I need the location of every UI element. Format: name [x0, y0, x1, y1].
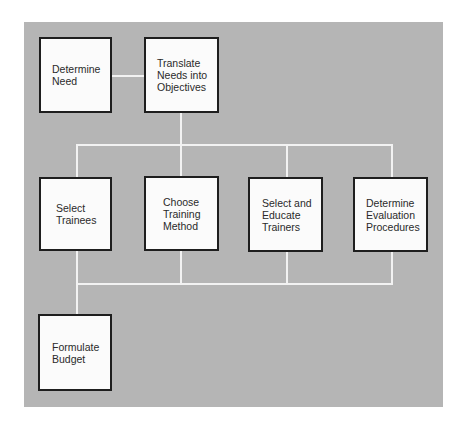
node-formulate-budget: Formulate Budget [38, 314, 112, 391]
node-translate-needs: Translate Needs into Objectives [144, 37, 219, 113]
node-label-line: Training [163, 208, 217, 220]
node-label-line: Method [163, 220, 217, 232]
node-label-line: Educate [262, 209, 321, 221]
node-label-line: Select [56, 202, 110, 214]
bottom-bus-line [76, 283, 393, 285]
node-label-line: Procedures [366, 221, 426, 233]
node-choose-training-method: Choose Training Method [144, 176, 219, 251]
node-label-line: Budget [52, 353, 110, 365]
node-label-line: Formulate [52, 341, 110, 353]
node-label-line: Needs into [157, 69, 217, 81]
top-bus-line [76, 144, 393, 146]
node-label-line: Need [52, 75, 110, 87]
node-label-line: Determine [52, 63, 110, 75]
node-label-line: Trainees [56, 214, 110, 226]
node-label-line: Choose [163, 196, 217, 208]
connector-trainers-down [286, 251, 288, 285]
node-label-line: Translate [157, 57, 217, 69]
node-label-line: Trainers [262, 221, 321, 233]
node-label-line: Select and [262, 197, 321, 209]
node-select-trainees: Select Trainees [39, 177, 112, 251]
connector-bus-to-trainers [286, 144, 288, 177]
node-determine-evaluation: Determine Evaluation Procedures [353, 177, 428, 252]
node-determine-need: Determine Need [39, 37, 112, 113]
connector-method-down [180, 250, 182, 285]
connector-need-to-translate [112, 75, 144, 77]
node-select-educate-trainers: Select and Educate Trainers [248, 177, 323, 252]
node-label-line: Evaluation [366, 209, 426, 221]
node-label-line: Determine [366, 197, 426, 209]
node-label-line: Objectives [157, 81, 217, 93]
